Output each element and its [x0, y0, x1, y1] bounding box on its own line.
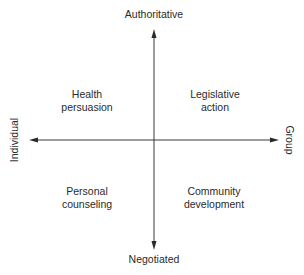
quadrant-label-line1: Community: [184, 185, 244, 198]
quadrant-personal-counseling: Personal counseling: [62, 185, 112, 211]
quadrant-legislative-action: Legislative action: [190, 88, 240, 114]
quadrant-label-line2: counseling: [62, 198, 112, 211]
arrow-right-icon: [270, 138, 279, 143]
quadrant-label-line2: development: [184, 198, 244, 211]
quadrant-diagram: Authoritative Negotiated Individual Grou…: [0, 0, 304, 275]
quadrant-label-line2: action: [190, 101, 240, 114]
quadrant-health-persuasion: Health persuasion: [61, 88, 112, 114]
arrow-left-icon: [29, 138, 38, 143]
quadrant-label-line1: Legislative: [190, 88, 240, 101]
axes: [0, 0, 304, 275]
quadrant-community-development: Community development: [184, 185, 244, 211]
arrow-down-icon: [152, 241, 157, 250]
axis-label-negotiated: Negotiated: [129, 253, 180, 266]
axis-label-group: Group: [283, 125, 296, 154]
axis-label-authoritative: Authoritative: [125, 8, 183, 21]
axis-label-individual: Individual: [8, 118, 21, 162]
arrow-up-icon: [152, 29, 157, 38]
quadrant-label-line1: Health: [61, 88, 112, 101]
quadrant-label-line2: persuasion: [61, 101, 112, 114]
quadrant-label-line1: Personal: [62, 185, 112, 198]
